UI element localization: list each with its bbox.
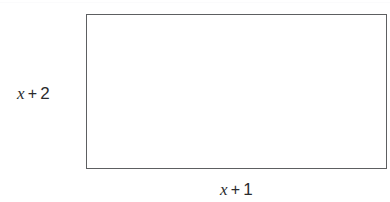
width-label-variable: x [220,180,228,199]
height-label-operator: + [25,85,41,102]
width-label-operator: + [228,181,244,198]
side-label-width: x+1 [86,181,387,198]
height-label-constant: 2 [40,84,50,103]
height-label-variable: x [17,84,25,103]
width-label-constant: 1 [243,180,253,199]
rectangle-diagram-canvas: x+2 x+1 [0,0,390,202]
rectangle-shape [86,14,387,169]
scan-artifact-line [0,2,390,3]
side-label-height: x+2 [17,85,50,102]
